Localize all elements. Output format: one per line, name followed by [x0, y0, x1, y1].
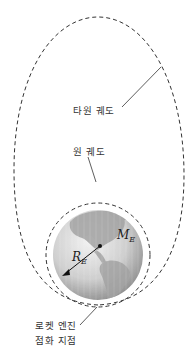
elliptical-orbit-leader	[122, 67, 161, 107]
radius-symbol-main: R	[72, 250, 81, 264]
earth-radius-symbol: RE	[72, 250, 87, 266]
ignition-point-label-line2: 점화 지점	[35, 333, 77, 347]
mass-symbol-subscript: E	[129, 235, 135, 244]
ignition-point-leader	[80, 307, 97, 325]
radius-symbol-subscript: E	[81, 257, 87, 266]
mass-symbol-main: M	[117, 228, 129, 242]
ignition-point-label-line1: 로켓 엔진	[35, 318, 77, 332]
circular-orbit-label: 원 궤도	[73, 144, 105, 158]
earth	[53, 205, 143, 305]
earth-mass-symbol: ME	[117, 228, 135, 244]
circular-orbit-leader	[88, 157, 96, 182]
elliptical-orbit-label: 타원 궤도	[73, 103, 115, 117]
orbit-diagram	[0, 0, 196, 359]
